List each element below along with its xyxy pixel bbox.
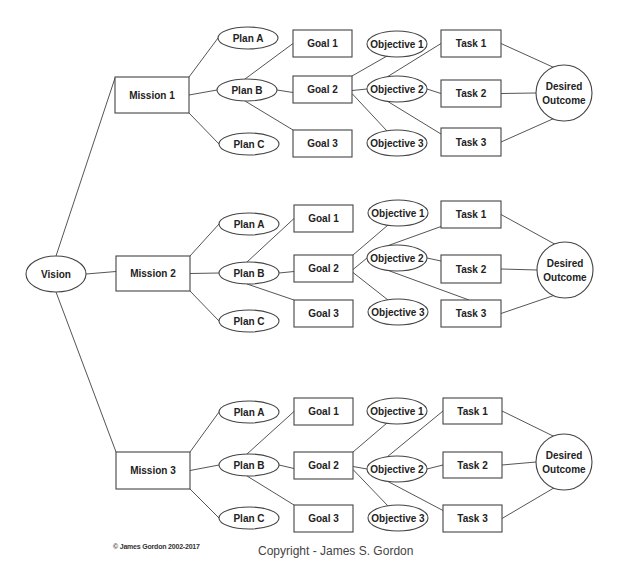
edge-task-outcome [502, 486, 557, 519]
task-label: Task 1 [456, 38, 487, 49]
task-label: Task 1 [457, 406, 488, 417]
desired-outcome-circle [537, 242, 593, 298]
goal-label: Goal 2 [308, 460, 339, 471]
edge-plan-goal [247, 476, 294, 505]
mission-label: Mission 3 [130, 465, 176, 476]
edge-vision-mission [56, 78, 115, 256]
desired-outcome-label: Outcome [542, 464, 586, 475]
task-label: Task 3 [456, 308, 487, 319]
goal-label: Goal 3 [308, 513, 339, 524]
goal-label: Goal 1 [307, 38, 338, 49]
edge-mission-plan [189, 113, 219, 144]
desired-outcome-circle [536, 434, 592, 490]
mission-group: Mission 2Plan APlan BPlan CGoal 1Goal 2G… [116, 200, 593, 332]
edge-objective-task [387, 101, 441, 134]
edge-goal-objective [353, 273, 388, 301]
edge-plan-goal [279, 465, 294, 469]
goal-label: Goal 1 [308, 213, 339, 224]
edge-task-outcome [501, 93, 536, 94]
goal-label: Goal 2 [307, 84, 338, 95]
plan-label: Plan C [233, 139, 264, 150]
edge-vision-mission [56, 292, 116, 452]
edge-objective-task [427, 89, 441, 94]
edge-mission-plan [190, 273, 219, 274]
edge-goal-objective [353, 423, 387, 452]
plan-label: Plan C [233, 316, 264, 327]
edge-goal-objective [352, 56, 387, 76]
edge-task-outcome [501, 269, 537, 270]
vision-label: Vision [41, 269, 71, 280]
edge-plan-goal [247, 284, 294, 300]
task-label: Task 3 [457, 513, 488, 524]
edge-objective-task [387, 227, 441, 247]
edge-goal-objective [352, 89, 367, 91]
desired-outcome-label: Desired [546, 450, 583, 461]
objective-label: Objective 2 [370, 84, 424, 95]
task-label: Task 1 [456, 209, 487, 220]
edge-mission-plan [190, 412, 219, 452]
objective-label: Objective 1 [371, 208, 425, 219]
edge-mission-plan [190, 489, 219, 518]
objective-label: Objective 2 [370, 253, 424, 264]
edge-vision-mission [86, 272, 116, 275]
edge-task-outcome [502, 411, 557, 438]
edge-objective-task [427, 258, 441, 261]
edge-mission-plan [189, 90, 217, 95]
edge-mission-plan [190, 291, 219, 321]
objective-label: Objective 3 [370, 138, 424, 149]
desired-outcome-label: Outcome [542, 95, 586, 106]
edge-task-outcome [501, 215, 558, 247]
edge-objective-task [427, 465, 443, 469]
plan-label: Plan A [234, 219, 265, 230]
plan-label: Plan A [233, 33, 264, 44]
plan-label: Plan B [231, 85, 262, 96]
plan-label: Plan C [233, 513, 264, 524]
task-label: Task 2 [456, 264, 487, 275]
desired-outcome-label: Desired [547, 258, 584, 269]
edge-plan-goal [277, 90, 293, 93]
edge-task-outcome [501, 294, 558, 314]
mission-group: Mission 3Plan APlan BPlan CGoal 1Goal 2G… [116, 398, 592, 532]
goal-label: Goal 3 [308, 308, 339, 319]
plan-label: Plan A [234, 407, 265, 418]
plan-label: Plan B [233, 460, 264, 471]
objective-label: Objective 1 [370, 39, 424, 50]
edge-goal-objective [353, 258, 367, 270]
edge-goal-objective [353, 467, 367, 470]
copyright-stamp: © James Gordon 2002-2017 [113, 543, 200, 550]
mission-group: Mission 1Plan APlan BPlan CGoal 1Goal 2G… [115, 27, 592, 157]
edge-mission-plan [189, 38, 218, 77]
copyright-caption: Copyright - James S. Gordon [258, 544, 413, 558]
diagram-nodes: Mission 1Plan APlan BPlan CGoal 1Goal 2G… [26, 27, 593, 532]
plan-label: Plan B [233, 268, 264, 279]
desired-outcome-label: Desired [546, 81, 583, 92]
objective-label: Objective 3 [371, 513, 425, 524]
desired-outcome-label: Outcome [543, 272, 587, 283]
vision-group: Vision [26, 256, 86, 292]
goal-label: Goal 3 [307, 138, 338, 149]
goal-label: Goal 1 [308, 406, 339, 417]
edge-mission-plan [190, 224, 219, 256]
mission-label: Mission 2 [130, 268, 176, 279]
task-label: Task 2 [456, 88, 487, 99]
edge-task-outcome [501, 117, 557, 142]
edge-mission-plan [190, 465, 219, 471]
edge-task-outcome [501, 44, 557, 70]
goal-label: Goal 2 [308, 263, 339, 274]
mission-label: Mission 1 [129, 90, 175, 101]
desired-outcome-circle [536, 65, 592, 121]
edge-plan-goal [279, 272, 294, 274]
task-label: Task 2 [457, 460, 488, 471]
objective-label: Objective 3 [371, 307, 425, 318]
edge-task-outcome [502, 462, 536, 465]
edge-plan-goal [245, 101, 293, 130]
task-label: Task 3 [456, 137, 487, 148]
objective-label: Objective 1 [370, 406, 424, 417]
objective-label: Objective 2 [370, 464, 424, 475]
vision-mission-hierarchy-diagram: Mission 1Plan APlan BPlan CGoal 1Goal 2G… [0, 0, 632, 585]
